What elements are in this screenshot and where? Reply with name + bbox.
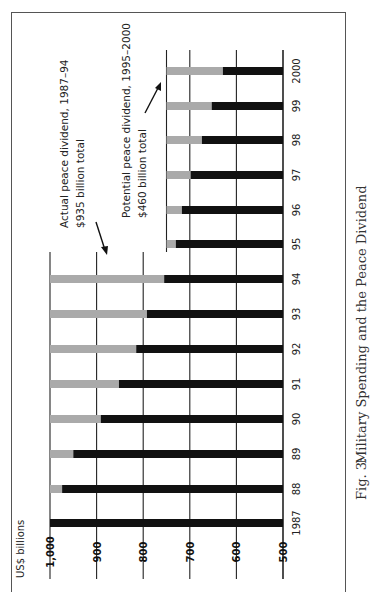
peace-dividend-bar — [167, 171, 191, 179]
military-spending-bar — [101, 415, 283, 423]
value-tick-label: 1,000 — [45, 536, 56, 568]
year-labels: 19878889909192939495969798992000 — [291, 58, 302, 535]
y-axis-label: US$ billions — [15, 520, 26, 578]
year-label: 97 — [291, 169, 302, 182]
year-label: 93 — [291, 308, 302, 321]
annotation-actual: Actual peace dividend, 1987–94 $935 bill… — [58, 59, 108, 255]
annotation-potential-line2: $460 billion total — [136, 129, 148, 218]
military-spending-bar — [182, 206, 283, 214]
year-label: 2000 — [291, 58, 302, 83]
arrow-icon — [96, 222, 108, 255]
value-tick-label: 800 — [138, 542, 149, 563]
military-spending-bar — [147, 310, 283, 318]
year-label: 88 — [291, 483, 302, 496]
military-spending-bar — [73, 450, 283, 458]
year-label: 91 — [291, 378, 302, 391]
peace-dividend-bar — [50, 310, 147, 318]
year-label: 95 — [291, 238, 302, 251]
peace-dividend-bar — [167, 240, 176, 248]
annotation-potential: Potential peace dividend, 1995–2000 $460… — [120, 23, 161, 218]
figure-caption: Fig. 3: Military Spending and the Peace … — [354, 185, 369, 500]
year-label: 98 — [291, 134, 302, 147]
value-tick-label: 600 — [231, 542, 242, 563]
military-spending-bar — [62, 485, 283, 493]
military-spending-bar — [176, 240, 283, 248]
arrow-icon — [145, 82, 161, 113]
peace-dividend-bar — [167, 136, 202, 144]
value-tick-label: 700 — [185, 542, 196, 563]
military-spending-bar — [136, 345, 283, 353]
peace-dividend-bar — [50, 450, 73, 458]
military-spending-bar — [202, 136, 283, 144]
military-spending-bar — [191, 171, 283, 179]
year-label: 90 — [291, 413, 302, 426]
peace-dividend-bar — [50, 380, 119, 388]
peace-dividend-bar — [167, 206, 182, 214]
annotation-actual-line2: $935 billion total — [74, 139, 86, 228]
year-label: 92 — [291, 343, 302, 356]
peace-dividend-bar — [167, 67, 223, 75]
military-spending-bar — [212, 102, 283, 110]
bars — [50, 67, 283, 527]
value-tick-label: 900 — [92, 542, 103, 563]
military-spending-bar — [50, 519, 283, 527]
peace-dividend-bar — [50, 415, 101, 423]
military-spending-bar — [164, 275, 283, 283]
year-label: 1987 — [291, 510, 302, 535]
military-spending-bar — [223, 67, 283, 75]
peace-dividend-bar — [50, 485, 62, 493]
annotation-actual-line1: Actual peace dividend, 1987–94 — [58, 59, 70, 228]
peace-dividend-bar — [167, 102, 212, 110]
value-tick-labels: 1,000900800700600500 — [45, 536, 289, 568]
caption-title: Military Spending and the Peace Dividend — [354, 185, 369, 464]
military-spending-bar — [119, 380, 283, 388]
peace-dividend-bar — [50, 275, 164, 283]
value-tick-label: 500 — [278, 542, 289, 563]
peace-dividend-bar — [50, 345, 136, 353]
year-label: 89 — [291, 448, 302, 461]
year-label: 99 — [291, 100, 302, 113]
annotation-potential-line1: Potential peace dividend, 1995–2000 — [120, 23, 132, 218]
year-label: 94 — [291, 273, 302, 286]
year-label: 96 — [291, 204, 302, 217]
